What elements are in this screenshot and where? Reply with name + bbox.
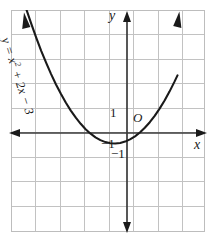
y-axis-label: y [109, 9, 115, 23]
y-tick-label-1: 1 [110, 106, 117, 119]
x-axis-label: x [194, 138, 200, 152]
y-tick-label-neg-1: −1 [111, 147, 125, 160]
parabola-plot [0, 0, 220, 244]
origin-label: O [133, 111, 142, 124]
graph-figure: y x O 1 −1 −1 y = x2 + 2x − 3 [0, 0, 220, 244]
plot-background [11, 10, 205, 232]
